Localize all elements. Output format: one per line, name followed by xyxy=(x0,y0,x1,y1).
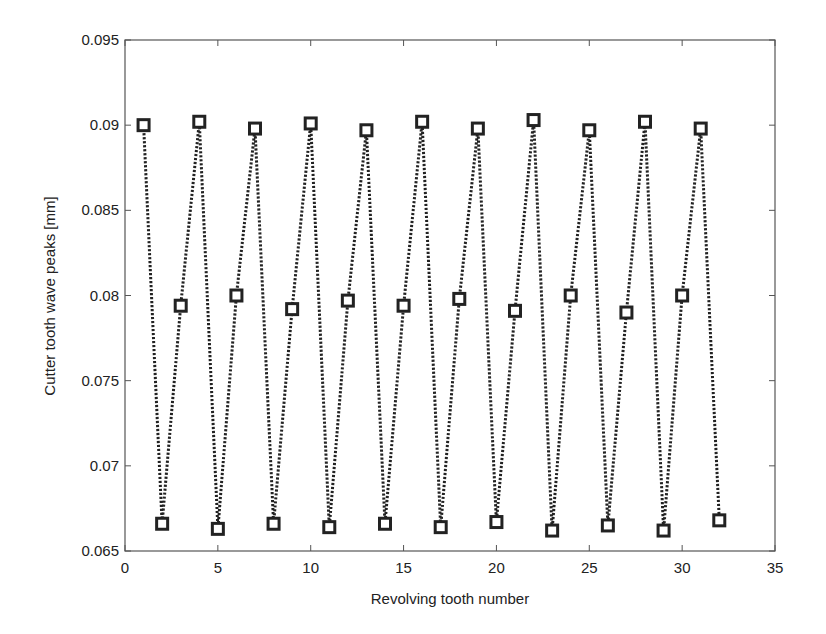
square-marker xyxy=(417,116,428,127)
x-tick-label: 15 xyxy=(395,559,412,576)
y-tick-label: 0.085 xyxy=(81,201,119,218)
chart: 05101520253035 0.0650.070.0750.080.0850.… xyxy=(0,0,826,634)
square-marker xyxy=(250,123,261,134)
x-tick-label: 25 xyxy=(581,559,598,576)
square-marker xyxy=(287,304,298,315)
y-axis-label: Cutter tooth wave peaks [mm] xyxy=(41,196,58,395)
square-marker xyxy=(435,522,446,533)
square-marker xyxy=(602,520,613,531)
square-marker xyxy=(157,518,168,529)
square-marker xyxy=(380,518,391,529)
square-marker xyxy=(528,115,539,126)
square-marker xyxy=(547,525,558,536)
square-marker xyxy=(398,300,409,311)
square-marker xyxy=(231,290,242,301)
square-marker xyxy=(658,525,669,536)
x-tick-label: 35 xyxy=(767,559,784,576)
square-marker xyxy=(194,116,205,127)
square-marker xyxy=(268,518,279,529)
square-marker xyxy=(491,517,502,528)
square-marker xyxy=(584,125,595,136)
y-tick-label: 0.09 xyxy=(90,116,119,133)
square-marker xyxy=(212,523,223,534)
y-tick-label: 0.07 xyxy=(90,457,119,474)
square-marker xyxy=(621,307,632,318)
square-marker xyxy=(695,123,706,134)
x-tick-label: 20 xyxy=(488,559,505,576)
x-tick-label: 10 xyxy=(302,559,319,576)
square-marker xyxy=(565,290,576,301)
square-marker xyxy=(454,293,465,304)
square-marker xyxy=(714,515,725,526)
x-tick-label: 0 xyxy=(121,559,129,576)
square-marker xyxy=(640,116,651,127)
square-marker xyxy=(361,125,372,136)
square-marker xyxy=(175,300,186,311)
square-marker xyxy=(305,118,316,129)
square-marker xyxy=(677,290,688,301)
square-marker xyxy=(472,123,483,134)
y-tick-label: 0.065 xyxy=(81,542,119,559)
x-tick-label: 5 xyxy=(214,559,222,576)
square-marker xyxy=(510,305,521,316)
y-tick-label: 0.075 xyxy=(81,372,119,389)
x-tick-label: 30 xyxy=(674,559,691,576)
x-axis-label: Revolving tooth number xyxy=(371,590,529,607)
square-marker xyxy=(324,522,335,533)
square-marker xyxy=(342,295,353,306)
y-tick-label: 0.095 xyxy=(81,31,119,48)
y-tick-label: 0.08 xyxy=(90,287,119,304)
square-marker xyxy=(138,120,149,131)
